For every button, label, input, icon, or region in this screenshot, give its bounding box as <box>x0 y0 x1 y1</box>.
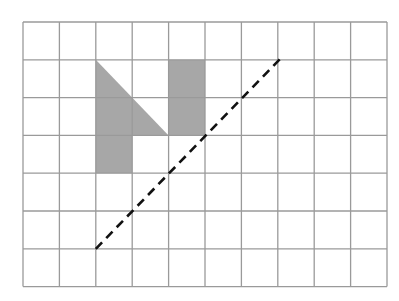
shaded-square-below-triangle <box>96 135 132 173</box>
symmetry-grid-diagram <box>0 0 399 301</box>
shaded-shapes <box>96 60 205 173</box>
square-grid <box>23 22 387 287</box>
